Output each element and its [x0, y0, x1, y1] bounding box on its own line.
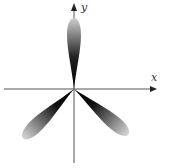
x-axis [4, 86, 157, 92]
x-axis-label: x [151, 71, 158, 84]
petal-top [67, 18, 81, 89]
y-axis-arrow-icon [71, 3, 77, 11]
x-axis-arrow-icon [150, 86, 157, 92]
polar-rose-diagram: x y [0, 0, 169, 168]
y-axis-label: y [80, 1, 88, 14]
petal-lower-left [18, 84, 79, 143]
petal-lower-right [70, 84, 133, 140]
